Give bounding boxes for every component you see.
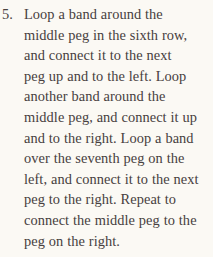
text-line: left, and connect it to the next (24, 169, 209, 190)
text-line: connect the middle peg to the (24, 210, 209, 231)
text-line: middle peg in the sixth row, (24, 25, 209, 46)
text-line: middle peg, and connect it up (24, 107, 209, 128)
text-line: peg to the right. Repeat to (24, 189, 209, 210)
text-line: over the seventh peg on the (24, 148, 209, 169)
text-line: peg on the right. (24, 231, 209, 252)
document-page: 5. Loop a band around the middle peg in … (0, 0, 213, 257)
text-line: and connect it to the next (24, 45, 209, 66)
instruction-paragraph: Loop a band around the middle peg in the… (0, 4, 213, 251)
text-line: Loop a band around the (24, 4, 209, 25)
text-line: and to the right. Loop a band (24, 128, 209, 149)
list-item: 5. Loop a band around the middle peg in … (0, 4, 213, 251)
text-line: peg up and to the left. Loop (24, 66, 209, 87)
text-line: another band around the (24, 86, 209, 107)
list-item-number: 5. (2, 4, 22, 25)
